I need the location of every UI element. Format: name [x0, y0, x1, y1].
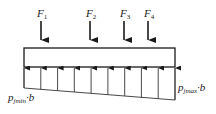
beam-diagram: F1 F2 F3 F4 pjmin·b pjmax·b	[0, 0, 216, 114]
force-label-f3: F3	[119, 7, 131, 21]
reaction-arrows	[24, 68, 175, 100]
reaction-label-min: pjmin·b	[7, 91, 35, 105]
beam	[24, 48, 175, 67]
reaction-label-max: pjmax·b	[177, 81, 206, 95]
force-label-f1: F1	[36, 7, 48, 21]
force-label-f4: F4	[143, 7, 155, 21]
force-arrows	[41, 21, 148, 40]
reaction-outline	[24, 68, 175, 100]
force-label-f2: F2	[85, 7, 97, 21]
